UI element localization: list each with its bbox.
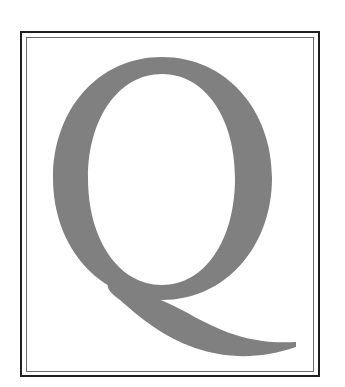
letter-q-glyph — [0, 0, 345, 387]
